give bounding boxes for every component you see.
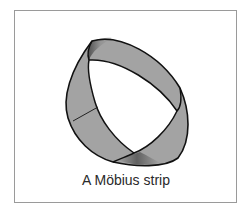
figure-caption: A Möbius strip xyxy=(0,172,252,188)
